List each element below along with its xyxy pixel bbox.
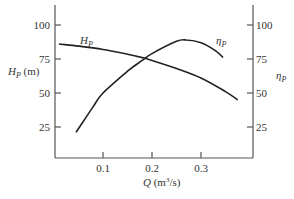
x-axis-label: Q (m3/s) (143, 176, 181, 189)
right-tick-label: 25 (256, 121, 268, 133)
x-tick-label: 0.3 (194, 162, 208, 174)
pump-performance-chart: 100755025 100755025 0.10.20.3 HP ηP HP (… (0, 0, 294, 199)
right-y-axis-label: ηP (276, 69, 286, 84)
eta-curve-label: ηP (216, 34, 226, 49)
right-tick-label: 50 (256, 87, 268, 99)
x-ticks: 0.10.20.3 (96, 152, 208, 174)
left-y-axis-label: HP (m) (7, 65, 40, 80)
right-y-ticks: 100755025 (247, 19, 273, 133)
left-tick-label: 100 (34, 19, 51, 31)
left-tick-label: 50 (39, 87, 51, 99)
left-tick-label: 25 (39, 121, 51, 133)
right-tick-label: 100 (256, 19, 273, 31)
right-tick-label: 75 (256, 53, 268, 65)
left-tick-label: 75 (39, 53, 51, 65)
x-tick-label: 0.1 (96, 162, 110, 174)
x-tick-label: 0.2 (145, 162, 159, 174)
eta-curve (76, 40, 223, 133)
hp-curve (59, 44, 238, 100)
